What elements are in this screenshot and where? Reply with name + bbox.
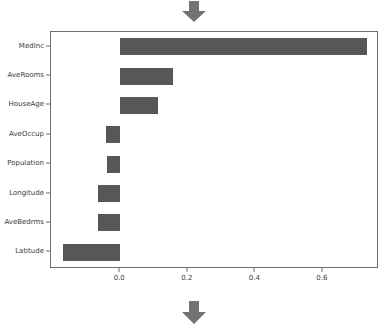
- x-tick-mark: [186, 268, 187, 272]
- bar-aveoccup: [106, 126, 121, 143]
- bar-population: [107, 156, 121, 173]
- y-tick-label-medinc: MedInc: [19, 42, 44, 50]
- bar-houseage: [120, 97, 158, 114]
- x-tick-label-0.6: 0.6: [316, 274, 327, 282]
- y-tick-mark: [46, 104, 50, 105]
- bar-averooms: [120, 68, 173, 85]
- arrow-down-icon: [181, 1, 207, 23]
- y-tick-mark: [46, 192, 50, 193]
- y-tick-label-longitude: Longitude: [9, 189, 44, 197]
- y-tick-mark: [46, 75, 50, 76]
- y-tick-label-latitude: Latitude: [15, 247, 44, 255]
- y-tick-label-avebedrms: AveBedrms: [4, 218, 44, 226]
- x-tick-mark: [321, 268, 322, 272]
- y-tick-mark: [46, 251, 50, 252]
- x-tick-label-0.4: 0.4: [249, 274, 260, 282]
- x-tick-mark: [119, 268, 120, 272]
- bar-medinc: [120, 38, 367, 55]
- y-tick-mark: [46, 221, 50, 222]
- x-tick-label-0.2: 0.2: [181, 274, 192, 282]
- x-axis: 0.00.20.40.6: [50, 268, 378, 288]
- top-arrow-container: [0, 0, 387, 24]
- y-tick-label-averooms: AveRooms: [8, 71, 44, 79]
- plot-area: [50, 31, 378, 268]
- y-tick-mark: [46, 163, 50, 164]
- bar-latitude: [63, 244, 120, 261]
- y-tick-mark: [46, 133, 50, 134]
- y-tick-label-aveoccup: AveOccup: [9, 130, 44, 138]
- y-axis: MedIncAveRoomsHouseAgeAveOccupPopulation…: [0, 31, 50, 268]
- y-tick-mark: [46, 45, 50, 46]
- bar-longitude: [98, 185, 120, 202]
- x-tick-label-0.0: 0.0: [114, 274, 125, 282]
- bar-avebedrms: [98, 214, 120, 231]
- bottom-arrow-container: [0, 298, 387, 328]
- x-tick-mark: [254, 268, 255, 272]
- figure-canvas: MedIncAveRoomsHouseAgeAveOccupPopulation…: [0, 0, 387, 328]
- y-tick-label-population: Population: [7, 159, 44, 167]
- arrow-down-icon: [181, 301, 207, 325]
- y-tick-label-houseage: HouseAge: [9, 100, 44, 108]
